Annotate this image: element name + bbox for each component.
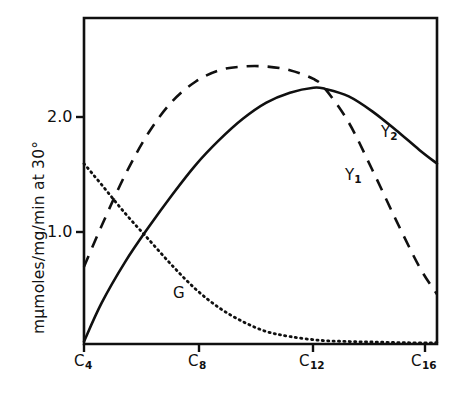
- curve-g: [84, 164, 437, 343]
- curve-y2: [84, 87, 437, 341]
- chart-figure: mμmoles/mg/min at 30° 2.0 1.0 C4 C8 C12 …: [0, 0, 462, 398]
- plot-frame: [84, 18, 437, 344]
- curve-y1: [84, 66, 437, 294]
- plot-area: [0, 0, 462, 398]
